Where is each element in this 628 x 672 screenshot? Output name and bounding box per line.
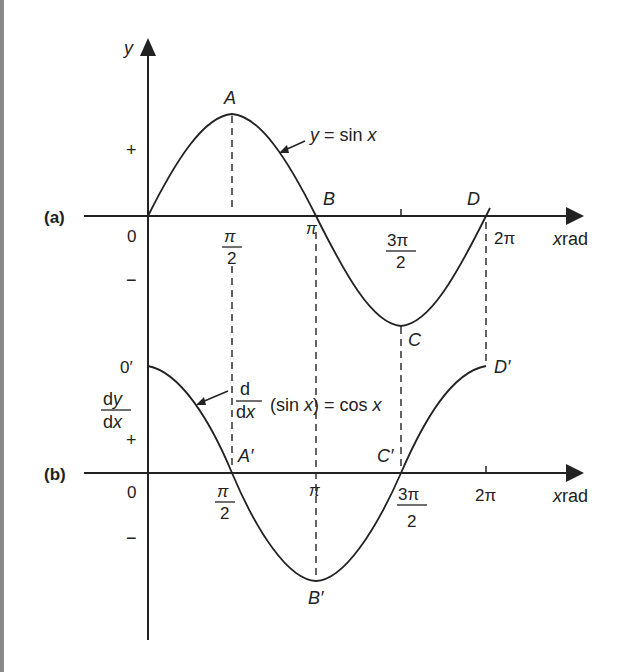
graph-b-minus: − — [126, 528, 137, 548]
tick-a-pi2-num: π — [224, 227, 236, 246]
cos-curve-label: (sin x) = cos x — [270, 395, 383, 415]
graph-b-origin-prime: 0′ — [120, 358, 133, 377]
sin-label-pointer — [285, 141, 305, 150]
graph-a-origin: 0 — [127, 227, 136, 246]
graph-b-label: (b) — [44, 465, 66, 484]
dydx-num: dy — [103, 389, 123, 409]
tick-a-2pi: 2π — [494, 229, 515, 248]
tick-a-3pi2-den: 2 — [396, 253, 405, 272]
cos-label-d: d — [240, 379, 250, 399]
graph-a-plus: + — [126, 140, 137, 160]
point-b-prime-label: B′ — [308, 588, 324, 608]
tick-a-3pi2-num: 3π — [387, 231, 408, 250]
point-d-label: D — [467, 189, 480, 209]
sin-curve-label: y = sin x — [308, 125, 378, 145]
x-axis-b-arrow-icon — [566, 464, 584, 482]
y-axis-label: y — [122, 38, 134, 58]
cos-label-pointer-arrowhead-icon — [196, 397, 206, 405]
tick-b-pi: π — [309, 482, 320, 499]
tick-a-pi: π — [306, 220, 317, 237]
cos-label-dx: dx — [236, 402, 256, 422]
point-c-prime-label: C′ — [377, 446, 394, 466]
dydx-den: dx — [103, 412, 123, 432]
tick-b-pi2-den: 2 — [220, 504, 229, 523]
tick-b-3pi2-num: 3π — [398, 485, 419, 504]
x-axis-b-label: xrad — [552, 486, 588, 506]
graph-b-plus: + — [126, 430, 137, 450]
tick-a-pi2-den: 2 — [227, 249, 236, 268]
tick-b-pi2-num: π — [217, 482, 229, 501]
sine-curve — [148, 114, 490, 326]
x-axis-a-arrow-icon — [566, 207, 584, 225]
sin-label-pointer-arrowhead-icon — [279, 145, 289, 153]
point-d-prime-label: D′ — [494, 357, 511, 377]
point-b-label: B — [323, 189, 335, 209]
x-axis-a-label: xrad — [552, 229, 588, 249]
graph-a-label: (a) — [44, 208, 65, 227]
tick-b-3pi2-den: 2 — [407, 512, 416, 531]
point-a-prime-label: A′ — [237, 446, 254, 466]
sine-derivative-diagram: y A + y = sin x (a) 0 B D π 2 π 3π 2 2π … — [0, 0, 628, 672]
cos-label-pointer — [202, 391, 228, 402]
graph-b-origin: 0 — [127, 483, 136, 502]
point-c-label: C — [408, 330, 422, 350]
point-a-label: A — [223, 88, 236, 108]
tick-b-2pi: 2π — [475, 486, 496, 505]
graph-a-minus: − — [126, 270, 137, 290]
y-axis-arrow-icon — [140, 38, 156, 56]
